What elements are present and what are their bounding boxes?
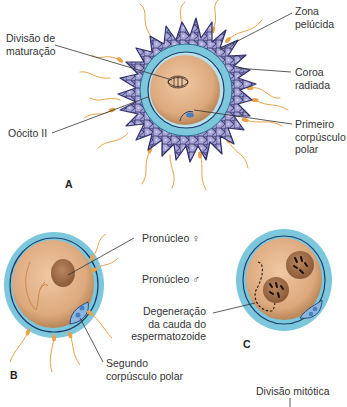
panel-c-illustration bbox=[236, 229, 332, 331]
label-segundo-corpusculo-polar: Segundo corpúsculo polar bbox=[106, 357, 183, 382]
fertilization-diagram: Divisão de maturação Oócito II Zona pelú… bbox=[0, 0, 347, 407]
panel-letter-c: C bbox=[243, 338, 251, 350]
label-divisao-mitotica: Divisão mitótica bbox=[256, 385, 330, 398]
label-primeiro-corpusculo-polar: Primeiro corpúsculo polar bbox=[295, 118, 346, 156]
panel-letter-b: B bbox=[10, 369, 18, 381]
label-pronucleo-masculino: Pronúcleo ♂ bbox=[142, 273, 200, 286]
label-degeneracao-cauda: Degeneração da cauda do espermatozoide bbox=[130, 305, 206, 343]
panel-letter-a: A bbox=[65, 178, 73, 190]
panel-a-illustration bbox=[80, 0, 288, 190]
label-coroa-radiada: Coroa radiada bbox=[295, 66, 330, 91]
label-oocito-ii: Oócito II bbox=[8, 127, 47, 140]
label-divisao-maturacao: Divisão de maturação bbox=[6, 32, 56, 57]
label-zona-pelucida: Zona pelúcida bbox=[295, 5, 334, 30]
panel-b-illustration bbox=[4, 232, 118, 372]
label-pronucleo-feminino: Pronúcleo ♀ bbox=[142, 232, 200, 245]
